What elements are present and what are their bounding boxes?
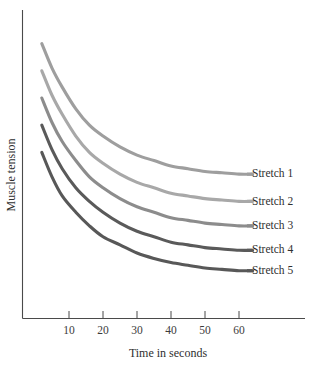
x-axis-ticks [69, 311, 239, 319]
legend: Stretch 1Stretch 2Stretch 3Stretch 4Stre… [247, 167, 293, 276]
x-axis-tick-label: 10 [63, 324, 75, 336]
x-axis-tick-label: 50 [199, 324, 211, 336]
x-axis-tick-label: 40 [165, 324, 177, 336]
x-axis-title: Time in seconds [129, 346, 208, 360]
legend-label-3: Stretch 3 [252, 219, 293, 231]
series-line-4 [42, 125, 253, 250]
series-line-2 [42, 71, 253, 202]
x-axis-tick-label: 20 [97, 324, 109, 336]
legend-label-2: Stretch 2 [252, 195, 293, 207]
x-axis-tick-label: 60 [233, 324, 245, 336]
series-line-1 [42, 44, 253, 175]
legend-label-1: Stretch 1 [252, 167, 293, 179]
chart-figure: 102030405060 Stretch 1Stretch 2Stretch 3… [0, 0, 321, 370]
line-chart: 102030405060 Stretch 1Stretch 2Stretch 3… [0, 0, 321, 370]
x-axis-tick-labels: 102030405060 [63, 324, 245, 336]
series-line-3 [42, 98, 253, 226]
legend-label-4: Stretch 4 [252, 243, 293, 255]
y-axis-title: Muscle tension [4, 139, 18, 212]
data-series-group [42, 44, 253, 271]
legend-label-5: Stretch 5 [252, 264, 293, 276]
x-axis-tick-label: 30 [131, 324, 143, 336]
